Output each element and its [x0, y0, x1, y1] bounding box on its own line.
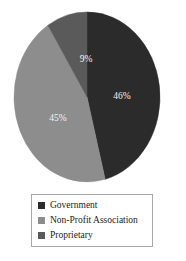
legend-item-government[interactable]: Government: [38, 198, 147, 213]
legend-swatch-proprietary: [38, 232, 45, 239]
legend-swatch-non-profit-association: [38, 217, 45, 224]
pie-slice-value-label-non-profit-association: 45%: [49, 113, 67, 123]
legend-swatch-government: [38, 202, 45, 209]
legend-label-non-profit-association: Non-Profit Association: [50, 215, 138, 226]
pie-slice-value-label-government: 46%: [113, 91, 131, 101]
pie-chart-figure: 46%45%9% Government Non-Profit Associati…: [0, 0, 186, 261]
pie-plot-area: 46%45%9%: [0, 0, 186, 190]
legend-item-proprietary[interactable]: Proprietary: [38, 228, 147, 243]
pie-svg: 46%45%9%: [0, 0, 186, 190]
pie-slices-group: [14, 12, 160, 182]
legend-label-government: Government: [50, 200, 98, 211]
legend-label-proprietary: Proprietary: [50, 230, 93, 241]
pie-slice-value-label-proprietary: 9%: [80, 54, 93, 64]
legend-box: Government Non-Profit Association Propri…: [31, 194, 153, 247]
legend-item-non-profit-association[interactable]: Non-Profit Association: [38, 213, 147, 228]
